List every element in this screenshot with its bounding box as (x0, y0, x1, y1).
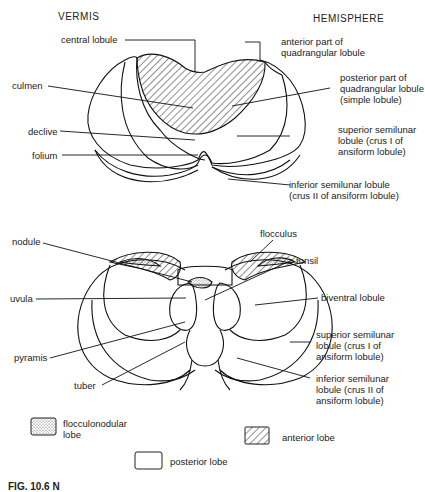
label-flocculus: flocculus (260, 228, 297, 239)
legend-label-anterior: anterior lobe (282, 432, 335, 443)
label-inferior-semilunar-bottom: inferior semilunar lobule (crus II of an… (316, 373, 389, 406)
tonsil-left (170, 283, 197, 330)
label-tonsil: tonsil (296, 255, 318, 266)
legend-label-posterior: posterior lobe (170, 456, 228, 467)
label-culmen: culmen (12, 80, 43, 91)
label-inferior-semilunar-top: inferior semilunar lobule (crus II of an… (289, 179, 399, 201)
label-pyramis: pyramis (14, 352, 47, 363)
label-biventral: biventral lobule (321, 292, 385, 303)
label-tuber: tuber (74, 380, 96, 391)
legend-swatch-anterior (245, 427, 269, 444)
vermis-header: VERMIS (58, 11, 99, 22)
label-nodule: nodule (12, 236, 41, 247)
label-declive: declive (28, 126, 58, 137)
legend-swatch-flocculonodular (31, 418, 56, 435)
label-anterior-quadrangular: anterior part of quadrangular lobule (281, 36, 365, 58)
legend-label-flocculonodular: flocculonodular lobe (63, 418, 127, 440)
legend-swatch-posterior (135, 452, 162, 469)
label-posterior-quadrangular: posterior part of quadrangular lobule (s… (340, 72, 424, 105)
anterior-lobe-hatched (137, 54, 265, 134)
superior-view (88, 54, 305, 182)
label-superior-semilunar-bottom: superior semilunar lobule (crus I of ans… (316, 329, 394, 362)
figure-caption: FIG. 10.6 N (8, 481, 60, 492)
anterior-lobe-hatched-right (232, 252, 305, 280)
label-uvula: uvula (10, 293, 33, 304)
nodule-dotted (188, 278, 212, 289)
label-central-lobule: central lobule (61, 34, 118, 45)
hemisphere-header: HEMISPHERE (313, 13, 384, 24)
label-folium: folium (32, 150, 57, 161)
inferior-view (78, 252, 332, 390)
label-superior-semilunar-top: superior semilunar lobule (crus I of ans… (338, 124, 416, 157)
